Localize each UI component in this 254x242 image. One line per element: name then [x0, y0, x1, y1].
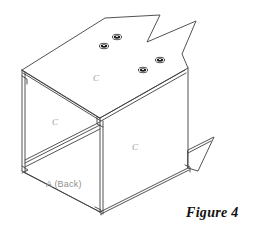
top-panel-label: C [93, 74, 99, 83]
screw-hole-group [99, 34, 164, 72]
hole-2 [99, 43, 108, 48]
figure-caption: Figure 4 [186, 206, 239, 220]
back-panel-label: A (Back) [46, 180, 82, 189]
hole-1 [112, 34, 121, 39]
back-panel-rail-bottom [25, 129, 100, 167]
top-panel-front-edge-thickness [100, 70, 185, 118]
figure-page: C C C A (Back) Figure 4 [0, 0, 254, 242]
top-panel-outline [22, 15, 196, 118]
left-panel-label: C [52, 118, 58, 127]
top-panel-left-edge-thickness [22, 70, 100, 118]
right-panel-bottom-edge [100, 168, 188, 212]
right-panel-bottom-edge-inner [101, 170, 189, 214]
back-panel-rail-top-2 [25, 125, 100, 163]
back-panel-rail-top [25, 122, 100, 160]
right-flange-tab [188, 137, 214, 171]
left-top-corner-bracket [22, 76, 27, 84]
hole-3 [155, 57, 164, 62]
top-panel-left-edge-thickness-2 [23, 73, 101, 121]
front-panel-label: C [132, 143, 138, 152]
top-panel-front-edge-thickness-2 [101, 73, 186, 121]
hole-4 [138, 67, 147, 72]
